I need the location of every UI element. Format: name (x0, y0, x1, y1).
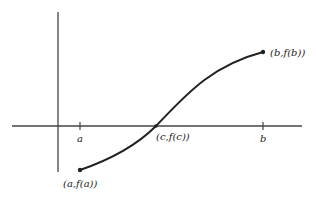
point-label-a: (a,f(a)) (63, 178, 98, 189)
tick-label-b: b (260, 133, 266, 144)
point-label-c: (c,f(c)) (156, 131, 190, 142)
function-graph: a b (a,f(a)) (c,f(c)) (b,f(b)) (0, 0, 316, 199)
point-label-b: (b,f(b)) (270, 47, 305, 58)
point-c (154, 124, 158, 128)
function-curve (80, 52, 263, 170)
point-b (261, 50, 265, 54)
point-a (78, 168, 82, 172)
tick-label-a: a (77, 133, 83, 144)
